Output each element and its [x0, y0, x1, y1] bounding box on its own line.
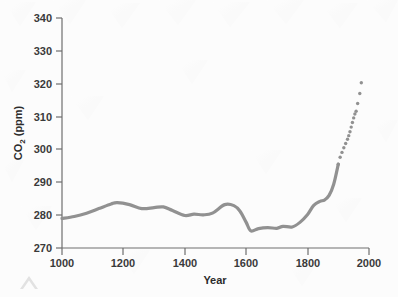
x-tick-label-1200: 1200 [111, 257, 135, 269]
y-tick-label-280: 280 [34, 209, 52, 221]
co2-solid-curve [62, 164, 338, 231]
data-point-marker [337, 163, 340, 166]
x-axis-ticks [62, 248, 369, 255]
data-point-marker [340, 151, 343, 154]
data-point-marker [351, 121, 354, 124]
y-tick-label-300: 300 [34, 143, 52, 155]
svg-text:CO2 (ppm): CO2 (ppm) [12, 105, 27, 160]
data-point-marker [352, 116, 355, 119]
data-point-marker [346, 138, 349, 141]
x-tick-label-2000: 2000 [357, 257, 381, 269]
data-point-marker [348, 130, 351, 133]
y-tick-label-310: 310 [34, 111, 52, 123]
y-axis-title-suffix: (ppm) [12, 105, 24, 139]
y-axis-tick-labels: 270 280 290 300 310 320 330 340 [34, 12, 52, 254]
x-tick-label-1000: 1000 [50, 257, 74, 269]
data-point-marker [356, 102, 359, 105]
data-point-marker [342, 146, 345, 149]
x-tick-label-1400: 1400 [173, 257, 197, 269]
chart-figure: 270 280 290 300 310 320 330 340 1000 120… [0, 0, 398, 297]
data-point-marker [347, 134, 350, 137]
y-tick-label-320: 320 [34, 78, 52, 90]
data-point-marker [360, 81, 363, 84]
data-point-marker [358, 92, 361, 95]
data-point-marker [354, 110, 357, 113]
co2-line-chart: 270 280 290 300 310 320 330 340 1000 120… [0, 0, 398, 297]
x-tick-label-1800: 1800 [296, 257, 320, 269]
x-tick-label-1600: 1600 [234, 257, 258, 269]
co2-dotted-markers [337, 81, 363, 166]
data-point-marker [349, 125, 352, 128]
y-axis-title-prefix: CO [12, 143, 24, 160]
y-axis-title: CO2 (ppm) [12, 105, 27, 160]
y-tick-label-270: 270 [34, 242, 52, 254]
y-tick-label-340: 340 [34, 12, 52, 24]
x-axis-title: Year [203, 274, 227, 286]
y-tick-label-290: 290 [34, 176, 52, 188]
data-point-marker [344, 142, 347, 145]
x-axis-tick-labels: 1000 1200 1400 1600 1800 2000 [50, 257, 381, 269]
y-axis-ticks [56, 18, 62, 248]
y-tick-label-330: 330 [34, 45, 52, 57]
data-point-marker [338, 156, 341, 159]
